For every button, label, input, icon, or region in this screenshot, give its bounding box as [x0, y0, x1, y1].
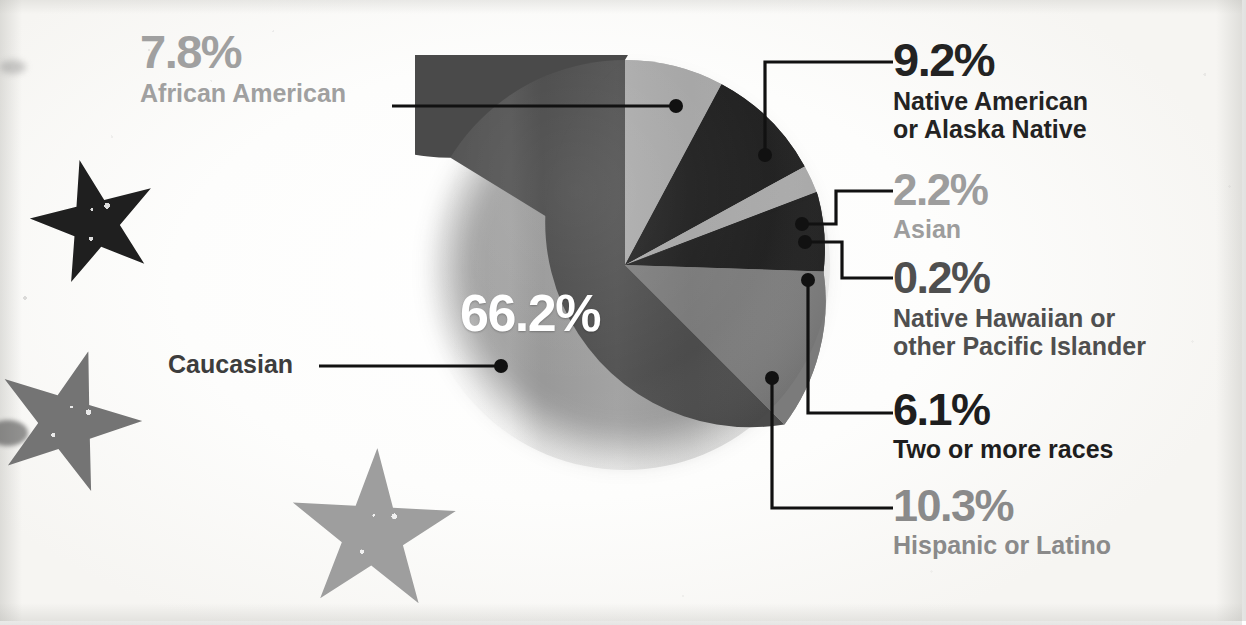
paper-edge-top — [0, 0, 1242, 14]
asian-percent: 2.2% — [893, 168, 987, 212]
label-native-american: 9.2% Native American or Alaska Native — [893, 36, 1088, 143]
star-dark-icon — [16, 144, 173, 300]
paper-edge-bottom — [0, 603, 1242, 625]
african-american-percent: 7.8% — [140, 28, 346, 75]
native-hawaiian-percent: 0.2% — [893, 255, 1146, 300]
label-caucasian: Caucasian — [168, 350, 293, 378]
paper-smudge-top-left — [0, 60, 26, 74]
native-american-percent: 9.2% — [893, 36, 1088, 83]
label-native-hawaiian: 0.2% Native Hawaiian or other Pacific Is… — [893, 255, 1146, 360]
label-two-or-more-races: 6.1% Two or more races — [893, 387, 1113, 463]
hispanic-latino-category: Hispanic or Latino — [893, 531, 1111, 559]
caucasian-category: Caucasian — [168, 350, 293, 378]
star-gray-icon — [0, 329, 160, 512]
asian-category: Asian — [893, 215, 987, 243]
paper-edge-left — [0, 0, 22, 621]
native-american-category-line1: Native American — [893, 87, 1088, 115]
two-or-more-races-percent: 6.1% — [893, 387, 1113, 432]
two-or-more-races-category: Two or more races — [893, 435, 1113, 463]
hispanic-latino-percent: 10.3% — [893, 483, 1111, 528]
label-asian: 2.2% Asian — [893, 168, 987, 243]
paper-smudge-left — [0, 420, 28, 446]
label-african-american: 7.8% African American — [140, 28, 346, 107]
pie-streak-overlay — [420, 60, 830, 470]
native-hawaiian-category-line2: other Pacific Islander — [893, 332, 1146, 360]
pie-slices — [415, 55, 835, 475]
pie-chart: 66.2% — [415, 55, 835, 475]
native-american-category-line2: or Alaska Native — [893, 115, 1088, 143]
native-hawaiian-category-line1: Native Hawaiian or — [893, 304, 1146, 332]
label-hispanic-latino: 10.3% Hispanic or Latino — [893, 483, 1111, 559]
paper-edge-right — [1216, 0, 1246, 621]
african-american-category: African American — [140, 79, 346, 107]
caucasian-inside-percent: 66.2% — [460, 283, 600, 343]
